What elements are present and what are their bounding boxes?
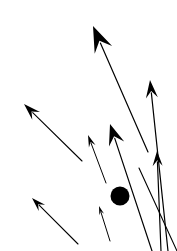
figure-canvas <box>0 0 177 251</box>
dot-layer <box>111 187 130 206</box>
figure-background <box>0 0 177 251</box>
dot-center <box>111 187 130 206</box>
vector-field-figure <box>0 0 177 251</box>
